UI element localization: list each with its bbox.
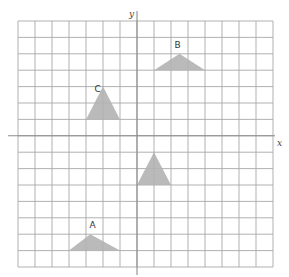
grid-lines <box>18 21 273 267</box>
x-axis-label: x <box>277 138 282 148</box>
triangle-label-b: B <box>174 40 180 50</box>
coordinate-grid: ABC x y <box>0 0 289 277</box>
triangle-label-c: C <box>95 84 101 94</box>
triangle-b <box>154 54 205 70</box>
axes <box>8 11 275 275</box>
triangle-a <box>69 234 120 250</box>
triangle-label-a: A <box>89 220 96 230</box>
y-axis-label: y <box>128 9 135 19</box>
